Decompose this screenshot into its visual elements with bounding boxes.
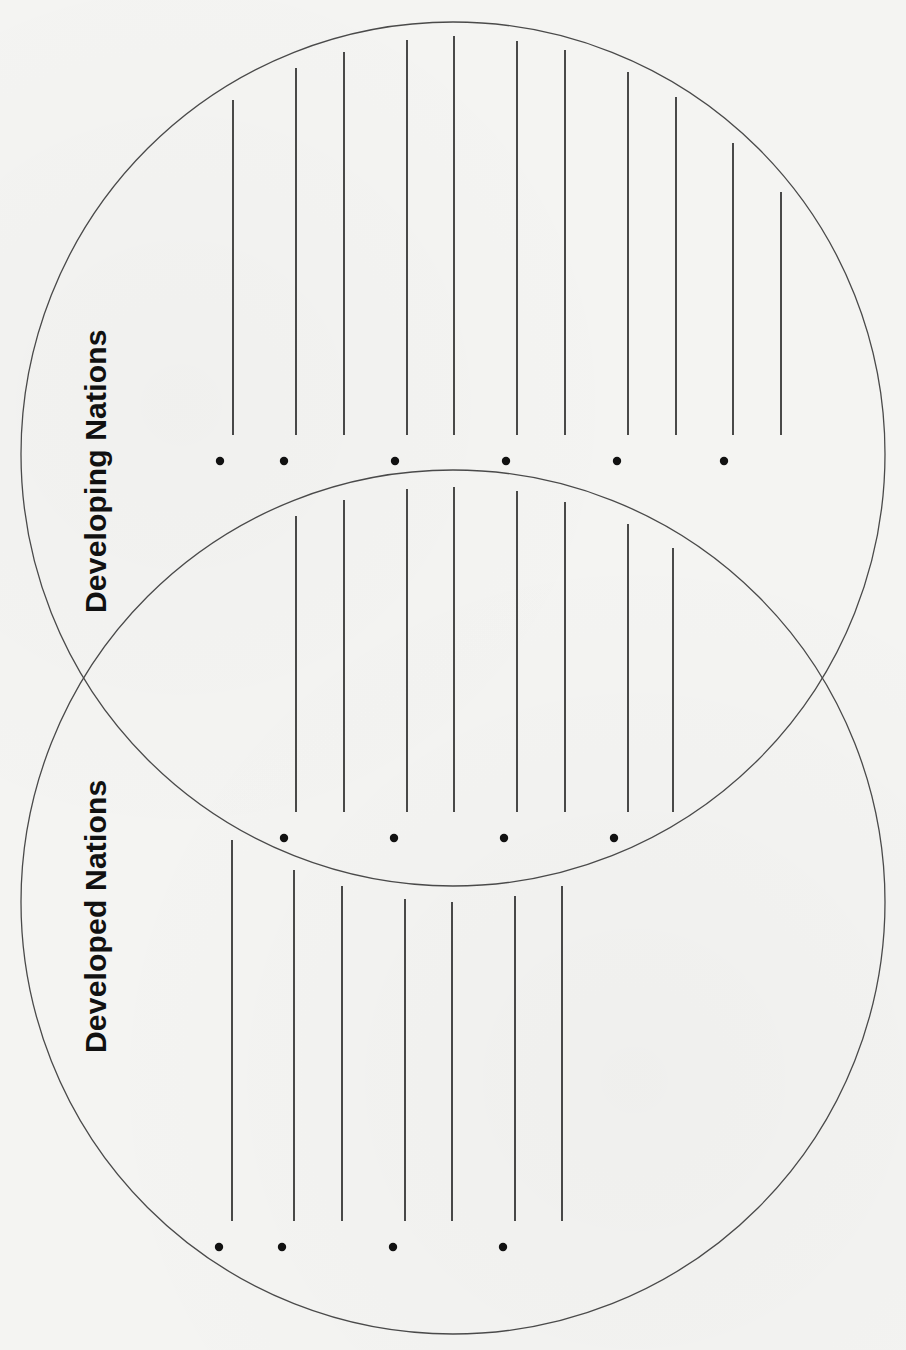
venn-circles [21, 22, 885, 1334]
overlap-writing-area[interactable] [280, 487, 673, 842]
overlap-bullet-icon [500, 834, 508, 842]
developing-bullet-icon [613, 457, 621, 465]
developing-bullet-icon [720, 457, 728, 465]
overlap-bullet-icon [390, 834, 398, 842]
developed-nations-label: Developed Nations [81, 780, 111, 1053]
developing-nations-label: Developing Nations [81, 329, 111, 613]
venn-diagram [0, 0, 906, 1350]
developed-nations-circle [21, 470, 885, 1334]
developing-nations-circle [21, 22, 885, 886]
worksheet-page: Developing Nations Developed Nations [0, 0, 906, 1350]
developed-bullet-icon [215, 1243, 223, 1251]
developing-only-writing-area[interactable] [216, 36, 781, 465]
developed-only-writing-area[interactable] [215, 840, 562, 1251]
developed-bullet-icon [389, 1243, 397, 1251]
developing-bullet-icon [391, 457, 399, 465]
developing-bullet-icon [280, 457, 288, 465]
developed-bullet-icon [499, 1243, 507, 1251]
developed-bullet-icon [278, 1243, 286, 1251]
developing-bullet-icon [216, 457, 224, 465]
developing-bullet-icon [502, 457, 510, 465]
overlap-bullet-icon [610, 834, 618, 842]
overlap-bullet-icon [280, 834, 288, 842]
